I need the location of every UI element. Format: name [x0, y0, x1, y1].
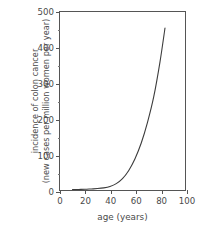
- y-tick-major: [56, 156, 60, 157]
- x-tick-label: 40: [105, 197, 116, 206]
- y-axis-label-line2: (new cases per million women per year): [41, 6, 52, 196]
- y-tick-minor: [58, 102, 61, 103]
- y-tick-major: [56, 12, 60, 13]
- y-tick-minor: [58, 66, 61, 67]
- y-tick-label: 100: [38, 152, 54, 161]
- x-tick-label: 80: [156, 197, 167, 206]
- y-tick-label: 200: [38, 116, 54, 125]
- y-tick-label: 500: [38, 8, 54, 17]
- x-tick-label: 60: [131, 197, 142, 206]
- x-tick-major: [187, 190, 188, 194]
- y-tick-label: 400: [38, 44, 54, 53]
- x-tick-major: [136, 190, 137, 194]
- y-tick-label: 0: [49, 188, 54, 197]
- y-tick-major: [56, 48, 60, 49]
- y-tick-minor: [58, 138, 61, 139]
- y-tick-major: [56, 84, 60, 85]
- x-tick-label: 20: [80, 197, 91, 206]
- y-tick-label: 300: [38, 80, 54, 89]
- plot-area: 0100200300400500020406080100: [59, 11, 186, 191]
- y-axis-label-line1: incidence of colon cancer: [30, 6, 41, 196]
- x-tick-label: 0: [57, 197, 62, 206]
- y-axis-label: incidence of colon cancer (new cases per…: [0, 0, 34, 200]
- y-tick-major: [56, 120, 60, 121]
- x-tick-major: [111, 190, 112, 194]
- data-curve: [60, 12, 185, 190]
- x-tick-label: 100: [179, 197, 195, 206]
- x-axis-label: age (years): [59, 212, 186, 222]
- y-tick-minor: [58, 174, 61, 175]
- x-tick-major: [85, 190, 86, 194]
- y-tick-minor: [58, 30, 61, 31]
- x-tick-major: [162, 190, 163, 194]
- x-tick-major: [60, 190, 61, 194]
- chart-figure: incidence of colon cancer (new cases per…: [0, 0, 203, 235]
